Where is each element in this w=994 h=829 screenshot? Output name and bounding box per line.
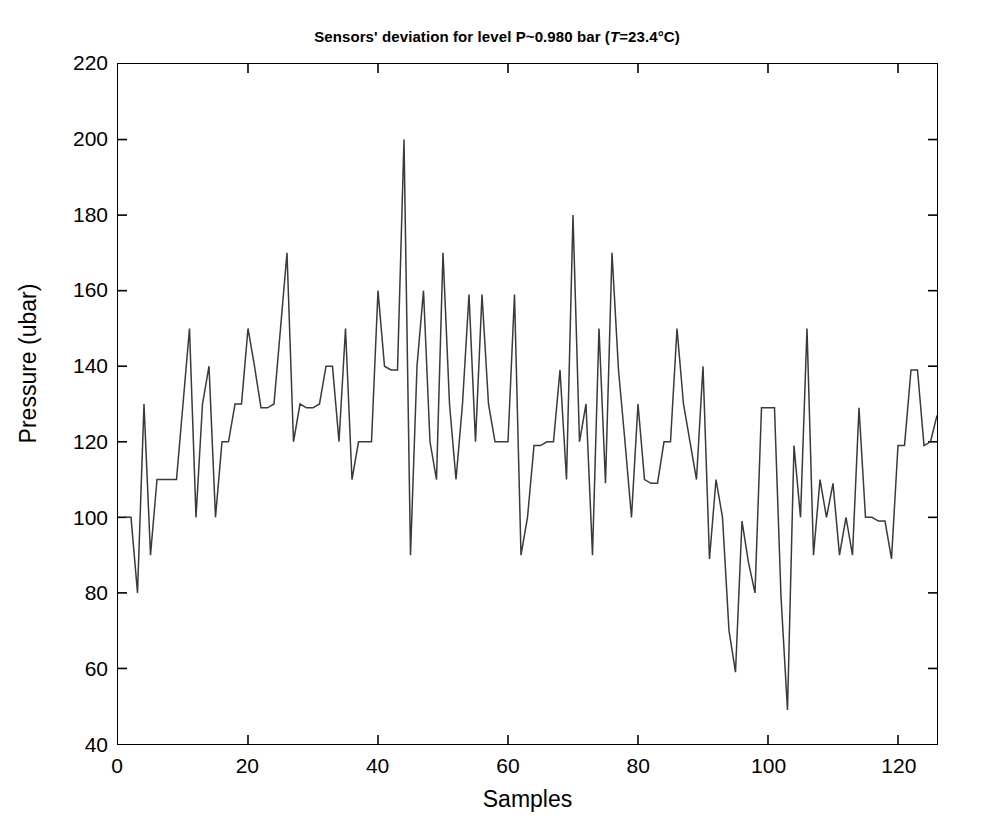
x-tick-label: 80 — [627, 754, 650, 778]
x-axis-tick-labels: 020406080100120 — [117, 754, 938, 784]
y-tick-label: 160 — [73, 278, 108, 302]
y-tick-label: 40 — [85, 733, 108, 757]
y-tick-label: 60 — [85, 657, 108, 681]
chart-title: Sensors' deviation for level P~0.980 bar… — [0, 28, 994, 45]
x-tick-label: 100 — [751, 754, 786, 778]
y-axis-tick-labels: 406080100120140160180200220 — [40, 63, 108, 745]
x-tick-label: 60 — [496, 754, 519, 778]
chart-title-italic-symbol: T — [610, 28, 619, 45]
chart-title-suffix: =23.4°C) — [619, 28, 680, 45]
chart-figure: Sensors' deviation for level P~0.980 bar… — [0, 0, 994, 829]
y-tick-label: 200 — [73, 127, 108, 151]
y-tick-label: 220 — [73, 51, 108, 75]
chart-title-prefix: Sensors' deviation for level P~0.980 bar… — [314, 28, 610, 45]
y-tick-label: 80 — [85, 581, 108, 605]
series-line-svg — [118, 64, 937, 744]
x-tick-label: 20 — [236, 754, 259, 778]
x-tick-label: 0 — [111, 754, 123, 778]
y-tick-label: 120 — [73, 430, 108, 454]
x-axis-label: Samples — [117, 786, 938, 813]
y-tick-label: 180 — [73, 203, 108, 227]
y-tick-label: 100 — [73, 506, 108, 530]
y-tick-label: 140 — [73, 354, 108, 378]
data-series-line — [125, 140, 937, 710]
y-axis-label: Pressure (ubar) — [15, 134, 42, 594]
plot-area — [117, 63, 938, 745]
x-tick-label: 40 — [366, 754, 389, 778]
x-tick-label: 120 — [881, 754, 916, 778]
